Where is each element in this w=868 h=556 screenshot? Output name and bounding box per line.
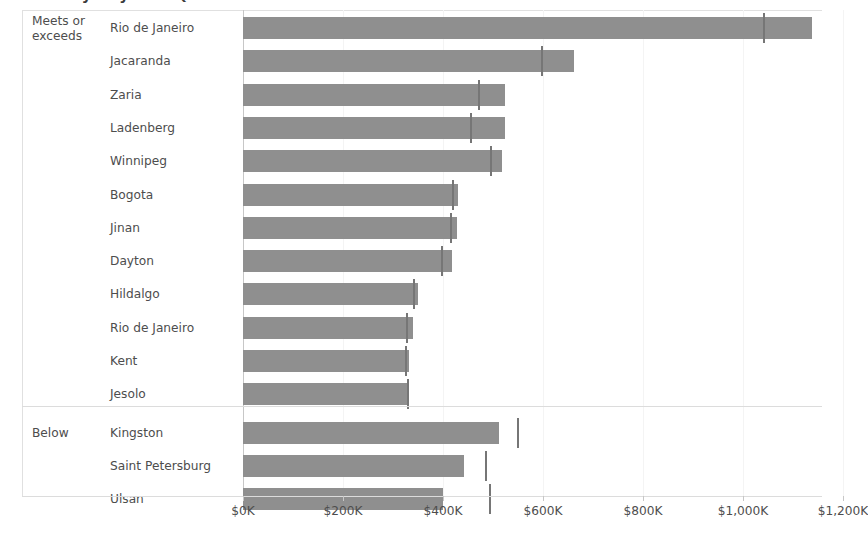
axis-tick: [743, 496, 744, 501]
group-header[interactable]: Meets orexceeds: [32, 14, 104, 44]
row-label[interactable]: Ladenberg: [110, 121, 175, 135]
quota-reference-marker[interactable]: [413, 279, 415, 309]
bar[interactable]: [243, 422, 499, 444]
quota-reference-marker[interactable]: [517, 418, 519, 448]
gridline: [543, 10, 544, 496]
axis-tick-label: $1,000K: [718, 504, 769, 518]
row-label[interactable]: Zaria: [110, 88, 142, 102]
axis-tick: [543, 496, 544, 501]
quota-reference-marker[interactable]: [485, 451, 487, 481]
row-label[interactable]: Jinan: [110, 221, 140, 235]
row-label[interactable]: Rio de Janeiro: [110, 21, 194, 35]
axis-tick-label: $800K: [623, 504, 662, 518]
group-header-line: exceeds: [32, 29, 104, 44]
group-separator: [22, 406, 822, 407]
quota-reference-marker[interactable]: [490, 146, 492, 176]
axis-tick-label: $1,200K: [818, 504, 868, 518]
x-axis: $0K$200K$400K$600K$800K$1,000K$1,200K: [22, 496, 822, 536]
quota-reference-marker[interactable]: [763, 13, 765, 43]
bar[interactable]: [243, 383, 409, 405]
bar[interactable]: [243, 150, 502, 172]
row-label[interactable]: Jacaranda: [110, 54, 171, 68]
row-label[interactable]: Saint Petersburg: [110, 459, 211, 473]
row-label[interactable]: Bogota: [110, 188, 153, 202]
gridline: [643, 10, 644, 496]
gridline: [843, 10, 844, 496]
top-rule: [22, 10, 822, 11]
bar[interactable]: [243, 350, 409, 372]
quota-reference-marker[interactable]: [441, 246, 443, 276]
axis-tick-label: $600K: [523, 504, 562, 518]
group-header-line: Meets or: [32, 14, 104, 29]
axis-tick-label: $200K: [323, 504, 362, 518]
row-label[interactable]: Kingston: [110, 426, 163, 440]
row-label[interactable]: Kent: [110, 354, 137, 368]
row-label[interactable]: Dayton: [110, 254, 154, 268]
bar[interactable]: [243, 50, 574, 72]
bar[interactable]: [243, 317, 413, 339]
bar[interactable]: [243, 283, 418, 305]
bar[interactable]: [243, 184, 458, 206]
axis-tick-label: $0K: [231, 504, 255, 518]
axis-tick: [843, 496, 844, 501]
bar[interactable]: [243, 117, 505, 139]
quota-reference-marker[interactable]: [406, 313, 408, 343]
chart-plot-area: Rio de JaneiroJacarandaZariaLadenbergWin…: [22, 10, 822, 506]
axis-tick-label: $400K: [423, 504, 462, 518]
bar[interactable]: [243, 250, 452, 272]
bar[interactable]: [243, 217, 457, 239]
axis-tick: [443, 496, 444, 501]
quota-reference-marker[interactable]: [452, 180, 454, 210]
quota-reference-marker[interactable]: [541, 46, 543, 76]
bar[interactable]: [243, 84, 505, 106]
chart-title: Sales by City with Quota: [22, 0, 225, 3]
axis-tick: [343, 496, 344, 501]
row-label[interactable]: Hildalgo: [110, 287, 160, 301]
row-label[interactable]: Rio de Janeiro: [110, 321, 194, 335]
axis-tick: [243, 496, 244, 501]
bar[interactable]: [243, 455, 464, 477]
pane-divider: [22, 10, 23, 496]
group-header[interactable]: Below: [32, 426, 104, 441]
quota-reference-marker[interactable]: [470, 113, 472, 143]
row-label[interactable]: Winnipeg: [110, 154, 167, 168]
quota-reference-marker[interactable]: [450, 213, 452, 243]
row-label[interactable]: Jesolo: [110, 387, 146, 401]
bar[interactable]: [243, 17, 812, 39]
axis-tick: [643, 496, 644, 501]
gridline: [743, 10, 744, 496]
quota-reference-marker[interactable]: [407, 379, 409, 409]
group-header-line: Below: [32, 426, 104, 441]
quota-reference-marker[interactable]: [478, 80, 480, 110]
quota-reference-marker[interactable]: [405, 346, 407, 376]
